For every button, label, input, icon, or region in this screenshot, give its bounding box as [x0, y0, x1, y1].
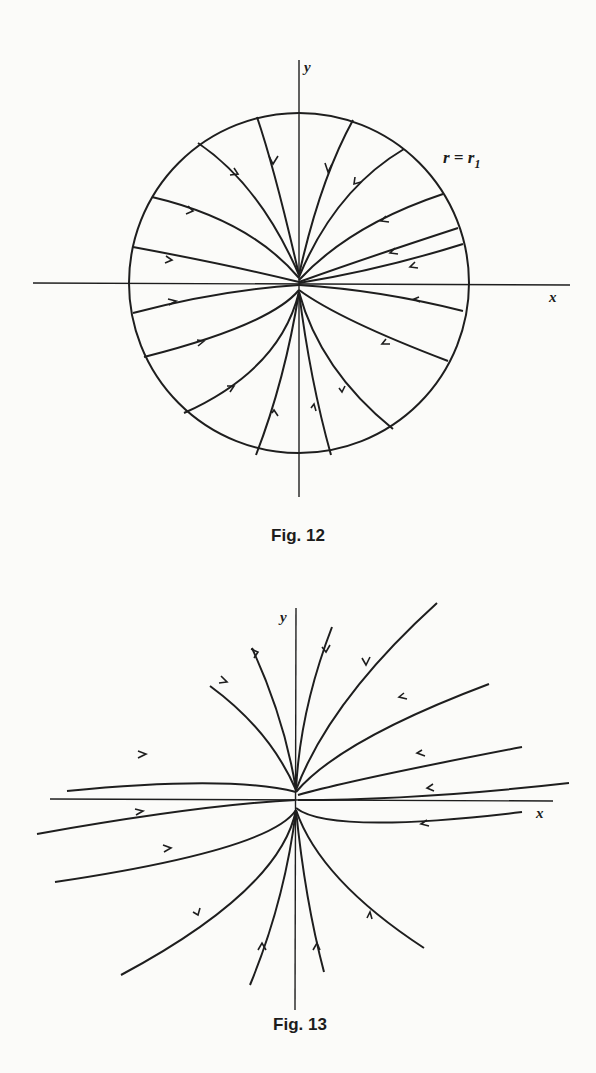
fig12-y-label: y	[302, 59, 311, 75]
figure-canvas: y x r = r1 Fig. 12	[0, 0, 596, 1073]
fig12-circle-label: r = r1	[443, 148, 480, 171]
fig13-caption: Fig. 13	[273, 1015, 327, 1034]
fig12-caption: Fig. 12	[271, 526, 325, 545]
fig13-x-label: x	[535, 805, 544, 821]
fig13-diagram: y x Fig. 13	[37, 603, 569, 1034]
fig12-trajectories	[133, 117, 463, 455]
fig12-diagram: y x r = r1 Fig. 12	[33, 59, 570, 545]
fig13-y-label: y	[278, 609, 287, 625]
fig12-x-label: x	[548, 289, 557, 305]
fig13-trajectories	[37, 603, 569, 985]
